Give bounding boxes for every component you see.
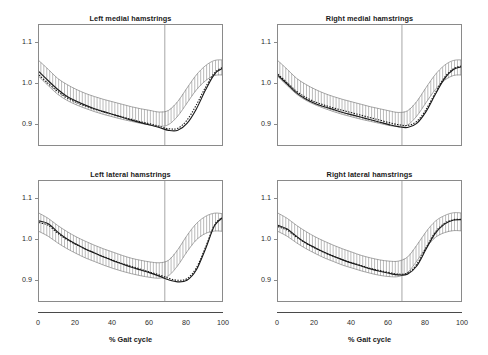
band-lower-curve bbox=[39, 75, 223, 126]
plot-area bbox=[38, 24, 223, 146]
y-tick-label: 1.1 bbox=[247, 37, 271, 46]
panel-curves bbox=[278, 181, 462, 302]
y-tick-mark bbox=[274, 42, 277, 43]
y-tick-label: 0.9 bbox=[247, 119, 271, 128]
y-tick-mark bbox=[35, 280, 38, 281]
confidence-band-hatching bbox=[41, 213, 222, 278]
x-tick-label: 100 bbox=[211, 318, 235, 327]
y-tick-label: 1.1 bbox=[8, 193, 32, 202]
x-tick-label: 20 bbox=[302, 318, 326, 327]
panel-title: Right medial hamstrings bbox=[277, 14, 462, 23]
x-tick-label: 20 bbox=[63, 318, 87, 327]
x-axis-line bbox=[38, 312, 223, 313]
x-tick-label: 100 bbox=[450, 318, 474, 327]
band-upper-curve bbox=[39, 60, 223, 112]
band-upper-curve bbox=[278, 60, 462, 113]
x-tick-label: 0 bbox=[26, 318, 50, 327]
mean-solid-curve bbox=[278, 220, 462, 276]
x-tick-label: 40 bbox=[100, 318, 124, 327]
y-tick-label: 1.0 bbox=[247, 78, 271, 87]
x-axis-line bbox=[277, 312, 462, 313]
x-axis-title: % Gait cycle bbox=[277, 335, 462, 344]
panel-curves bbox=[39, 25, 223, 146]
gait-cycle-figure: Left medial hamstrings0.91.01.1Right med… bbox=[0, 0, 488, 355]
panel-title: Left lateral hamstrings bbox=[38, 170, 223, 179]
band-lower-curve bbox=[278, 75, 462, 127]
x-tick-label: 0 bbox=[265, 318, 289, 327]
y-tick-label: 0.9 bbox=[247, 275, 271, 284]
y-tick-mark bbox=[35, 124, 38, 125]
y-tick-mark bbox=[35, 83, 38, 84]
y-tick-mark bbox=[274, 198, 277, 199]
x-tick-label: 80 bbox=[174, 318, 198, 327]
panel-curves bbox=[278, 25, 462, 146]
y-tick-label: 1.0 bbox=[247, 234, 271, 243]
band-upper-curve bbox=[39, 213, 223, 263]
reference-dotted-curve bbox=[278, 219, 462, 274]
mean-solid-curve bbox=[39, 217, 223, 282]
panel-title: Right lateral hamstrings bbox=[277, 170, 462, 179]
y-tick-mark bbox=[274, 83, 277, 84]
x-axis-title: % Gait cycle bbox=[38, 335, 223, 344]
x-tick-label: 80 bbox=[413, 318, 437, 327]
band-lower-curve bbox=[278, 231, 462, 277]
y-tick-label: 0.9 bbox=[8, 275, 32, 284]
y-tick-mark bbox=[35, 42, 38, 43]
plot-area bbox=[277, 24, 462, 146]
plot-area bbox=[277, 180, 462, 302]
y-tick-mark bbox=[274, 124, 277, 125]
confidence-band-hatching bbox=[280, 213, 461, 277]
confidence-band-hatching bbox=[280, 60, 461, 127]
x-tick-label: 40 bbox=[339, 318, 363, 327]
y-tick-label: 1.1 bbox=[247, 193, 271, 202]
y-tick-mark bbox=[35, 239, 38, 240]
y-tick-mark bbox=[274, 239, 277, 240]
x-tick-label: 60 bbox=[137, 318, 161, 327]
y-tick-label: 0.9 bbox=[8, 119, 32, 128]
band-upper-curve bbox=[278, 213, 462, 262]
panel-curves bbox=[39, 181, 223, 302]
y-tick-mark bbox=[274, 280, 277, 281]
confidence-band-hatching bbox=[41, 60, 222, 126]
x-tick-label: 60 bbox=[376, 318, 400, 327]
y-tick-mark bbox=[35, 198, 38, 199]
y-tick-label: 1.0 bbox=[8, 78, 32, 87]
panel-title: Left medial hamstrings bbox=[38, 14, 223, 23]
plot-area bbox=[38, 180, 223, 302]
y-tick-label: 1.0 bbox=[8, 234, 32, 243]
y-tick-label: 1.1 bbox=[8, 37, 32, 46]
